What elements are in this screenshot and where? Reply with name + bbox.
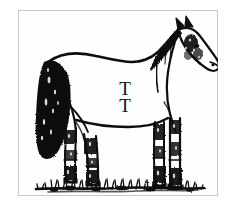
hindleg-near-markings: [84, 138, 99, 183]
illustration-frame: T T: [0, 0, 240, 210]
horse-drawing: [18, 10, 218, 196]
foreleg-far-markings: [153, 124, 166, 183]
foreleg-near-markings: [169, 120, 182, 185]
horse-figure: [36, 16, 218, 192]
